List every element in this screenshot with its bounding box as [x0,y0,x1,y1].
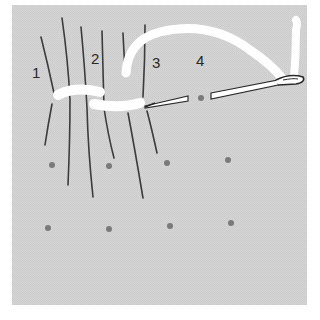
dot [106,226,112,232]
stitch-diagram: 1 2 3 4 [0,0,320,320]
dot [167,223,173,229]
fabric-background [12,5,307,305]
dot [225,157,231,163]
dot [228,220,234,226]
step-label-1: 1 [32,64,40,81]
dot [106,163,112,169]
step-label-2: 2 [91,50,99,67]
dot [164,160,170,166]
dot [49,162,55,168]
step-label-4: 4 [196,52,204,69]
step-label-3: 3 [152,54,160,71]
dot [198,95,204,101]
dot [45,225,51,231]
